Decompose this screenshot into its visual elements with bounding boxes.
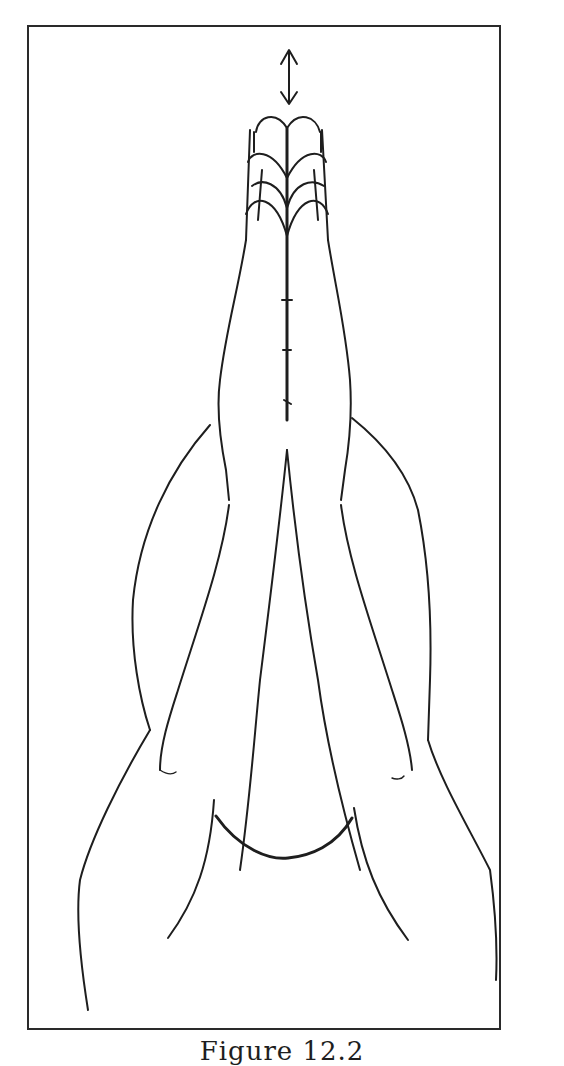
- forearms: [160, 450, 412, 870]
- double-arrow-icon: [281, 50, 297, 104]
- figure-caption: Figure 12.2: [0, 1036, 564, 1066]
- upper-arms: [78, 418, 496, 1010]
- palms: [218, 240, 350, 500]
- fingertips: [246, 117, 328, 420]
- chest-outline: [168, 800, 408, 940]
